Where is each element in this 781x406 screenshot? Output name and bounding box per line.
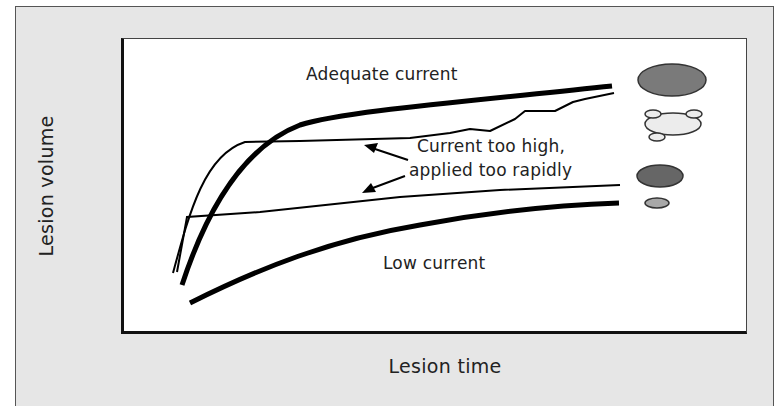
label-applied-too-rapidly: applied too rapidly: [409, 160, 572, 180]
label-adequate-current: Adequate current: [306, 64, 458, 84]
label-current-too-high: Current too high,: [417, 136, 565, 156]
too-rapid-lesion-icon: [637, 165, 683, 187]
adequate-lesion-icon: [638, 64, 706, 96]
irregular-lesion-icon: [645, 110, 702, 141]
curve-current-too-high: [173, 93, 614, 273]
arrow-to-too-high-curve: [364, 143, 408, 160]
low-current-lesion-icon: [645, 198, 669, 208]
label-low-current: Low current: [383, 253, 485, 273]
arrow-to-too-rapid-curve: [362, 176, 405, 193]
